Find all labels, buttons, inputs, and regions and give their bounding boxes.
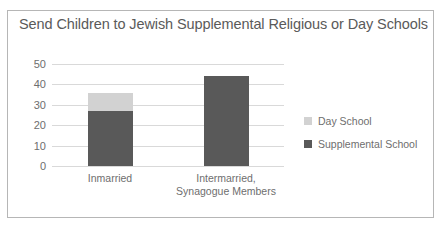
legend-label: Supplemental School (318, 138, 417, 150)
y-axis-tick-label: 10 (34, 140, 46, 152)
y-axis-tick-label: 0 (40, 160, 46, 172)
gridline (52, 166, 284, 167)
legend-item[interactable]: Day School (304, 115, 417, 127)
chart-legend: Day SchoolSupplemental School (304, 115, 417, 161)
y-axis-tick-label: 40 (34, 78, 46, 90)
bar-group[interactable]: Inmarried (88, 64, 133, 166)
bar-segment[interactable] (88, 93, 133, 111)
y-axis-tick-label: 50 (34, 58, 46, 70)
bar-group[interactable]: Intermarried,Synagogue Members (204, 64, 249, 166)
x-axis-category-label: Inmarried (88, 172, 132, 185)
bar-segment[interactable] (88, 111, 133, 166)
legend-label: Day School (318, 115, 372, 127)
legend-item[interactable]: Supplemental School (304, 138, 417, 150)
x-axis-category-label: Intermarried,Synagogue Members (176, 172, 276, 198)
bar-segment[interactable] (204, 76, 249, 166)
legend-swatch-icon (304, 117, 312, 125)
chart-frame: Send Children to Jewish Supplemental Rel… (7, 10, 434, 218)
y-axis-tick-label: 30 (34, 99, 46, 111)
legend-swatch-icon (304, 140, 312, 148)
chart-title: Send Children to Jewish Supplemental Rel… (8, 11, 433, 37)
y-axis-tick-label: 20 (34, 119, 46, 131)
plot-area: 01020304050 InmarriedIntermarried,Synago… (52, 64, 284, 166)
